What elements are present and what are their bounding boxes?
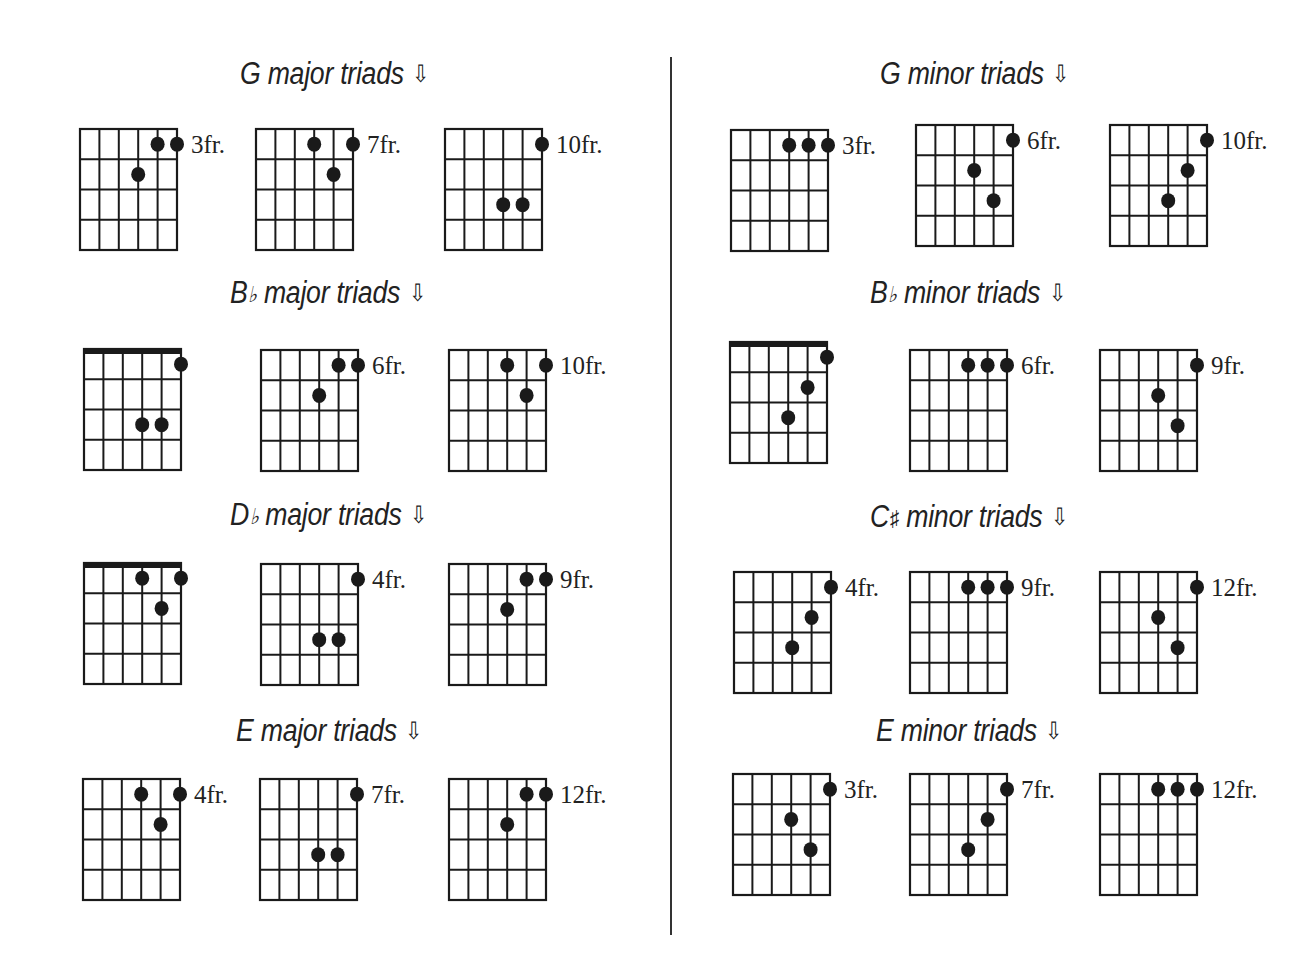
finger-dot (981, 580, 995, 595)
nut (729, 341, 828, 347)
finger-dot (1151, 610, 1165, 625)
finger-dot (1171, 782, 1185, 797)
finger-dot (961, 358, 975, 373)
fret-position-label: 10fr. (560, 352, 607, 380)
finger-dot (151, 137, 165, 152)
chord-quality: minor triads (899, 499, 1042, 534)
finger-dot (516, 197, 530, 212)
chord-quality: minor triads (894, 713, 1037, 748)
fret-position-label: 6fr. (1027, 127, 1061, 155)
fret-position-label: 9fr. (1021, 574, 1055, 602)
flat-symbol: ♭ (248, 282, 256, 307)
finger-dot (173, 787, 187, 802)
finger-dot (155, 601, 169, 616)
chord-diagram (435, 119, 552, 260)
sharp-symbol: ♯ (890, 506, 899, 531)
chord-diagram (70, 119, 187, 260)
chord-diagram (724, 562, 841, 703)
fret-position-label: 3fr. (842, 132, 876, 160)
nut (83, 562, 182, 568)
section-title-e-minor: E minor triads⇩ (876, 713, 1062, 749)
chord-diagram (1100, 115, 1217, 256)
chord-diagram (250, 769, 367, 910)
finger-dot (820, 350, 834, 365)
chord-diagram (1090, 764, 1207, 905)
chord-diagram (1090, 562, 1207, 703)
fret-position-label: 7fr. (367, 131, 401, 159)
finger-dot (351, 572, 365, 587)
finger-dot (802, 138, 816, 153)
finger-dot (539, 787, 553, 802)
finger-dot (134, 787, 148, 802)
fret-position-label: 9fr. (1211, 352, 1245, 380)
chord-quality: major triads (260, 56, 403, 91)
finger-dot (1190, 782, 1204, 797)
chord-diagram (1090, 340, 1207, 481)
finger-dot (535, 137, 549, 152)
finger-dot (1181, 163, 1195, 178)
down-arrow-icon: ⇩ (409, 279, 426, 306)
column-divider (670, 57, 672, 935)
fret-position-label: 4fr. (372, 566, 406, 594)
finger-dot (312, 388, 326, 403)
finger-dot (1190, 358, 1204, 373)
finger-dot (135, 571, 149, 586)
chord-root: B (870, 275, 888, 310)
section-title-g-major: G major triads⇩ (240, 56, 429, 92)
chord-diagram (900, 764, 1017, 905)
finger-dot (801, 380, 815, 395)
finger-dot (539, 358, 553, 373)
fret-position-label: 12fr. (1211, 574, 1258, 602)
chord-root: G (240, 56, 260, 91)
finger-dot (331, 847, 345, 862)
chord-diagram (439, 340, 556, 481)
finger-dot (1006, 133, 1020, 148)
finger-dot (781, 410, 795, 425)
finger-dot (1190, 580, 1204, 595)
section-title-db-major: D♭ major triads⇩ (230, 497, 427, 533)
finger-dot (981, 358, 995, 373)
section-title-g-minor: G minor triads⇩ (880, 56, 1069, 92)
finger-dot (520, 388, 534, 403)
fret-position-label: 12fr. (560, 781, 607, 809)
nut (83, 348, 182, 354)
fret-position-label: 7fr. (1021, 776, 1055, 804)
finger-dot (1151, 388, 1165, 403)
finger-dot (327, 167, 341, 182)
finger-dot (1000, 358, 1014, 373)
section-title-e-major: E major triads⇩ (236, 713, 422, 749)
finger-dot (785, 640, 799, 655)
section-title-bb-minor: B♭ minor triads⇩ (870, 275, 1066, 311)
chord-root: B (230, 275, 248, 310)
chord-quality: minor triads (900, 56, 1043, 91)
down-arrow-icon: ⇩ (410, 501, 427, 528)
finger-dot (1151, 782, 1165, 797)
chord-root: E (236, 713, 254, 748)
down-arrow-icon: ⇩ (1049, 279, 1066, 306)
fret-position-label: 4fr. (845, 574, 879, 602)
finger-dot (170, 137, 184, 152)
fret-position-label: 10fr. (1221, 127, 1268, 155)
down-arrow-icon: ⇩ (405, 717, 422, 744)
finger-dot (961, 842, 975, 857)
fret-position-label: 7fr. (371, 781, 405, 809)
fret-position-label: 6fr. (372, 352, 406, 380)
finger-dot (967, 163, 981, 178)
finger-dot (782, 138, 796, 153)
chord-diagram (251, 340, 368, 481)
finger-dot (174, 357, 188, 372)
finger-dot (824, 580, 838, 595)
finger-dot (350, 787, 364, 802)
chord-root: G (880, 56, 900, 91)
chord-root: C (870, 499, 889, 534)
fret-position-label: 6fr. (1021, 352, 1055, 380)
finger-dot (135, 417, 149, 432)
finger-dot (500, 358, 514, 373)
chord-quality: minor triads (897, 275, 1040, 310)
finger-dot (520, 787, 534, 802)
finger-dot (155, 417, 169, 432)
finger-dot (154, 817, 168, 832)
chord-diagram (439, 554, 556, 695)
fret-position-label: 9fr. (560, 566, 594, 594)
chord-diagram (246, 119, 363, 260)
